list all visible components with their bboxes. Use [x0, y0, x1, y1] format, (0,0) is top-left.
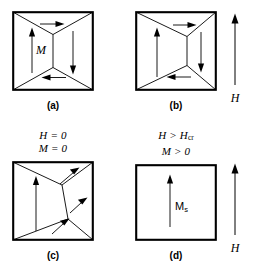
- panel-d-saturation-label-text: M: [175, 200, 184, 212]
- panel-c-arrow-diagonal-bottom: [52, 219, 70, 235]
- panel-d-condition-line1-subscript: cr: [188, 133, 194, 142]
- panel-d-condition: H > Hcr M > 0: [135, 129, 217, 157]
- panel-c-caption: (c): [12, 250, 94, 261]
- field-arrow-bottom-label: H: [222, 242, 248, 254]
- panel-a-arrow-down: [70, 31, 76, 75]
- panel-b-arrow-down: [198, 32, 204, 73]
- panel-c-arrow-up: [33, 176, 39, 231]
- panel-d-saturation-label-subscript: s: [184, 205, 188, 214]
- panel-d-arrow-up: [167, 175, 173, 228]
- field-arrow-top-label: H: [222, 92, 248, 104]
- panel-b-arrow-left: [167, 74, 192, 80]
- panel-d-condition-line1-text: H > H: [158, 129, 188, 141]
- panel-c-arrow-diagonal-top: [60, 168, 80, 185]
- panel-b: [135, 11, 217, 91]
- panel-a-caption: (a): [12, 100, 94, 111]
- field-arrow-top-glyph: [222, 11, 248, 91]
- panel-a-arrow-right: [40, 21, 65, 27]
- panel-c-condition-line1: H = 0: [12, 129, 94, 142]
- panel-c-condition: H = 0 M = 0: [12, 129, 94, 154]
- panel-a-magnetization-label: M: [36, 44, 46, 56]
- panel-b-boundary: [136, 12, 216, 90]
- panel-d: Ms: [135, 164, 217, 241]
- panel-d-caption: (d): [135, 250, 217, 261]
- panel-a-diagram: [12, 11, 94, 91]
- panel-d-condition-line1: H > Hcr: [135, 129, 217, 145]
- panel-b-caption: (b): [135, 100, 217, 111]
- panel-c-arrow-diagonal-right: [70, 198, 88, 214]
- field-arrow-bottom-glyph: [222, 161, 248, 241]
- panel-b-diagram: [135, 11, 217, 91]
- panel-c: [12, 161, 94, 241]
- panel-a-arrow-up: [29, 28, 35, 74]
- panel-b-domain-walls: [136, 12, 216, 90]
- panel-a-arrow-left: [42, 74, 67, 80]
- panel-a: M: [12, 11, 94, 91]
- field-arrow-bottom: [222, 161, 248, 241]
- panel-c-condition-line2: M = 0: [12, 142, 94, 155]
- field-arrow-top: [222, 11, 248, 91]
- panel-d-saturation-label: Ms: [175, 201, 188, 215]
- magnetic-domain-figure: M (a): [0, 0, 254, 269]
- panel-b-arrow-right: [173, 22, 197, 28]
- panel-d-condition-line2: M > 0: [135, 145, 217, 158]
- panel-b-arrow-up: [154, 28, 160, 78]
- panel-c-diagram: [12, 161, 94, 241]
